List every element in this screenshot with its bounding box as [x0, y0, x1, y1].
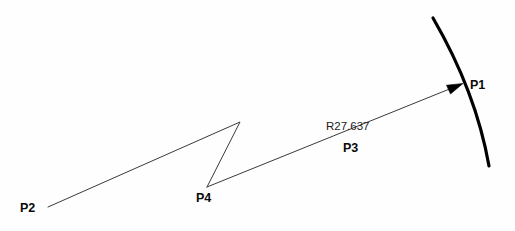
radius-dimension-text: R27.637 [326, 121, 369, 133]
point-label-p4: P4 [196, 192, 211, 205]
radius-leader-line [207, 88, 452, 187]
point-label-p1: P1 [470, 79, 485, 92]
technical-drawing [0, 0, 515, 231]
diagram-canvas: P1 P2 P3 P4 R27.637 [0, 0, 515, 231]
point-label-p2: P2 [20, 202, 35, 215]
point-label-p3: P3 [343, 142, 358, 155]
leader-arrowhead-icon [447, 84, 464, 95]
